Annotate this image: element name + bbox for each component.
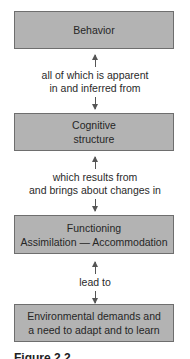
arrow-down-icon bbox=[95, 97, 96, 109]
arrow-down-icon bbox=[95, 199, 96, 211]
edge-cognitive-functioning: which results from and brings about chan… bbox=[0, 157, 190, 211]
arrow-up-icon bbox=[95, 262, 96, 274]
arrow-up-icon bbox=[95, 55, 96, 67]
arrow-down-icon bbox=[95, 291, 96, 303]
node-functioning-label-line: Functioning bbox=[67, 221, 121, 235]
figure-caption: Figure 2.2 bbox=[14, 351, 71, 359]
node-environment-label-line: a need to adapt and to learn bbox=[28, 323, 159, 337]
edge-label-line: lead to bbox=[79, 276, 111, 289]
node-functioning-label-line: Assimilation — Accommodation bbox=[20, 235, 167, 249]
node-cognitive-label-line: structure bbox=[74, 132, 115, 146]
node-environmental-demands: Environmental demands and a need to adap… bbox=[14, 304, 174, 342]
edge-label: lead to bbox=[79, 276, 111, 289]
node-behavior-label: Behavior bbox=[73, 23, 114, 37]
node-environment-label-line: Environmental demands and bbox=[27, 309, 161, 323]
edge-label-line: and brings about changes in bbox=[29, 184, 161, 197]
edge-behavior-cognitive: all of which is apparent in and inferred… bbox=[0, 55, 190, 109]
node-cognitive-label-line: Cognitive bbox=[72, 118, 116, 132]
edge-label: which results from and brings about chan… bbox=[29, 171, 161, 197]
edge-label-line: in and inferred from bbox=[42, 82, 149, 95]
arrow-up-icon bbox=[95, 157, 96, 169]
edge-label-line: which results from bbox=[29, 171, 161, 184]
node-cognitive-structure: Cognitive structure bbox=[14, 113, 174, 151]
node-behavior: Behavior bbox=[14, 11, 174, 49]
node-functioning: Functioning Assimilation — Accommodation bbox=[14, 215, 174, 254]
edge-label: all of which is apparent in and inferred… bbox=[42, 69, 149, 95]
edge-label-line: all of which is apparent bbox=[42, 69, 149, 82]
edge-functioning-environment: lead to bbox=[0, 262, 190, 303]
